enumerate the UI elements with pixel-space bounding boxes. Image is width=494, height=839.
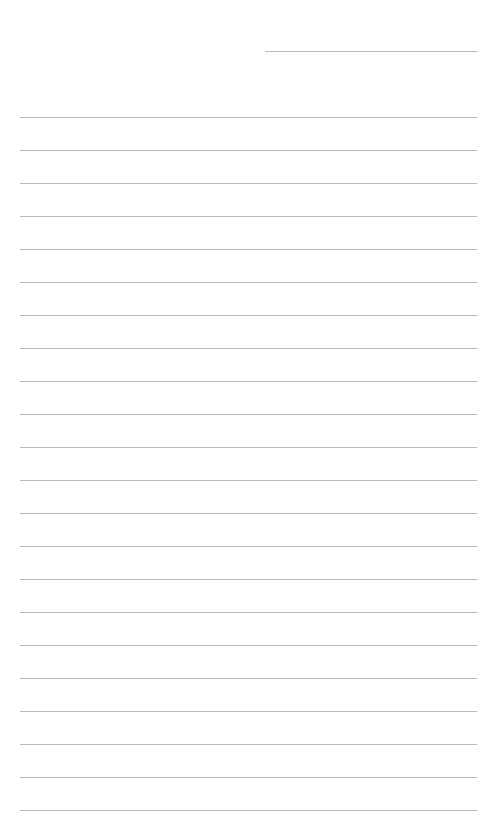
ruled-line [20,348,477,349]
ruled-line [20,216,477,217]
ruled-line [20,711,477,712]
title-line [265,51,477,52]
ruled-line [20,612,477,613]
ruled-line [20,315,477,316]
ruled-line [20,183,477,184]
ruled-line [20,546,477,547]
ruled-line [20,150,477,151]
ruled-line [20,513,477,514]
ruled-line [20,447,477,448]
ruled-line [20,381,477,382]
ruled-line [20,777,477,778]
ruled-line [20,579,477,580]
ruled-line [20,117,477,118]
ruled-line [20,282,477,283]
ruled-line [20,678,477,679]
ruled-line [20,249,477,250]
ruled-line [20,645,477,646]
ruled-line [20,414,477,415]
ruled-line [20,744,477,745]
ruled-line [20,480,477,481]
ruled-line [20,810,477,811]
